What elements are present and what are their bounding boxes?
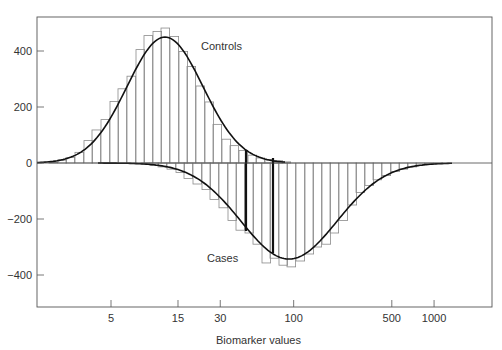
cases-bar [322,163,331,244]
controls-bar [187,66,196,163]
controls-bar [196,86,205,163]
cases-bar [330,163,339,233]
histogram-chart: 4002000−200−400 515301005001000 Controls… [0,0,502,350]
cases-bar [270,163,279,258]
cases-bar [184,163,193,178]
cases-bar [296,163,305,261]
cases-bar [348,163,357,205]
x-tick-label: 30 [214,312,226,324]
x-axis-title: Biomarker values [216,334,301,346]
controls-bar [222,139,231,163]
controls-bars [49,28,291,163]
cases-bar [339,163,348,220]
controls-bar [230,146,239,163]
y-tick-label: 200 [14,101,32,113]
x-tick-label: 15 [172,312,184,324]
y-tick-label: 0 [26,157,32,169]
controls-bar [127,76,136,163]
cases-bar [356,163,365,192]
controls-bar [179,52,188,163]
cases-bar [365,163,374,185]
controls-bar [153,31,162,163]
y-tick-label: 400 [14,45,32,57]
cases-bar [287,163,296,267]
y-axis: 4002000−200−400 [7,45,44,281]
cases-fit-curve [98,163,452,259]
x-tick-label: 5 [108,312,114,324]
controls-bar [213,124,222,163]
cases-bar [305,163,314,254]
y-tick-label: −200 [7,213,32,225]
x-axis: 515301005001000 [108,300,446,324]
cases-label: Cases [207,252,239,264]
controls-bar [144,36,153,163]
threshold-lines [246,150,273,253]
controls-bar [170,36,179,163]
x-tick-label: 100 [284,312,302,324]
x-tick-label: 500 [383,312,401,324]
controls-bar [118,89,127,163]
cases-bar [373,163,382,180]
controls-bar [161,28,170,163]
controls-bar [205,102,214,163]
cases-bars [141,163,443,267]
x-tick-label: 1000 [422,312,446,324]
y-tick-label: −400 [7,269,32,281]
controls-label: Controls [201,40,242,52]
cases-bar [253,163,262,244]
cases-bar [313,163,322,247]
cases-bar [279,163,288,265]
